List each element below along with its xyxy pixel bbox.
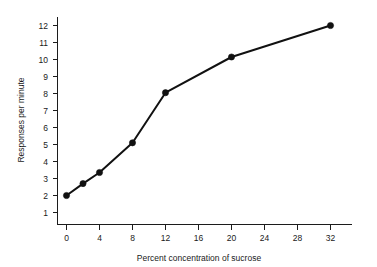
y-tick-label: 5 <box>43 140 48 150</box>
chart-figure: 12 11 10 9 8 7 6 5 4 3 2 1 0 4 8 12 16 2… <box>0 0 377 267</box>
data-point <box>327 22 333 28</box>
data-point <box>80 181 86 187</box>
x-tick-label: 32 <box>326 233 336 243</box>
y-tick-label: 12 <box>39 21 49 31</box>
data-point <box>63 192 69 198</box>
y-tick-label: 8 <box>43 89 48 99</box>
x-tick-label: 12 <box>161 233 171 243</box>
y-tick-label: 6 <box>43 123 48 133</box>
y-tick-label: 2 <box>43 191 48 201</box>
data-point <box>228 54 234 60</box>
x-tick-label: 8 <box>130 233 135 243</box>
y-axis-title: Responses per minute <box>16 77 26 162</box>
x-tick-label: 20 <box>227 233 237 243</box>
y-tick-label: 9 <box>43 72 48 82</box>
data-point <box>162 90 168 96</box>
x-tick-label: 0 <box>64 233 69 243</box>
x-tick-label: 4 <box>97 233 102 243</box>
y-tick-label: 3 <box>43 174 48 184</box>
y-tick-label: 7 <box>43 106 48 116</box>
y-tick-label: 11 <box>39 38 48 48</box>
x-axis-title: Percent concentration of sucrose <box>137 253 262 263</box>
data-point <box>129 140 135 146</box>
chart-background <box>0 0 377 267</box>
y-tick-label: 10 <box>39 55 49 65</box>
y-tick-label: 4 <box>43 157 48 167</box>
line-chart: 12 11 10 9 8 7 6 5 4 3 2 1 0 4 8 12 16 2… <box>0 0 377 267</box>
x-tick-label: 28 <box>293 233 303 243</box>
x-tick-label: 24 <box>260 233 270 243</box>
y-tick-label: 1 <box>43 208 48 218</box>
x-tick-label: 16 <box>194 233 204 243</box>
data-point <box>96 169 102 175</box>
